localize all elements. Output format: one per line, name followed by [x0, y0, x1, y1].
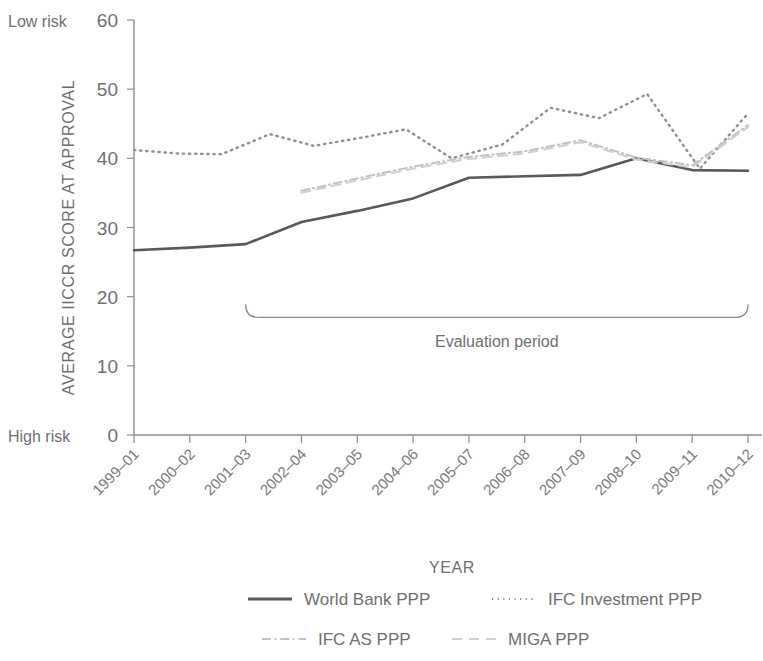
series-line-ifc-investment-ppp — [134, 94, 748, 169]
x-tick-label-9: 2008–10 — [591, 445, 644, 498]
iiccr-score-line-chart: 0102030405060Low riskHigh risk 1999–0120… — [0, 0, 763, 661]
series-lines — [134, 94, 748, 250]
legend-label-world-bank-ppp: World Bank PPP — [304, 590, 430, 609]
legend-label-ifc-investment-ppp: IFC Investment PPP — [548, 590, 702, 609]
evaluation-period-bracket-path — [246, 304, 748, 317]
y-tick-label-40: 40 — [97, 148, 118, 169]
x-tick-label-8: 2007–09 — [535, 445, 588, 498]
y-axis-low-risk-label: Low risk — [8, 13, 68, 30]
evaluation-period-label: Evaluation period — [435, 333, 559, 350]
x-tick-label-7: 2006–08 — [480, 445, 533, 498]
y-axis-high-risk-label: High risk — [8, 428, 71, 445]
x-axis-title: YEAR — [429, 559, 475, 576]
y-tick-label-10: 10 — [97, 356, 118, 377]
x-tick-label-11: 2010–12 — [703, 445, 756, 498]
x-axis: 1999–012000–022001–032002–042003–052004–… — [89, 435, 762, 498]
y-tick-label-60: 60 — [97, 10, 118, 31]
x-tick-label-2: 2001–03 — [200, 445, 253, 498]
y-tick-label-50: 50 — [97, 79, 118, 100]
y-tick-label-0: 0 — [107, 425, 118, 446]
x-tick-label-5: 2004–06 — [368, 445, 421, 498]
x-tick-label-0: 1999–01 — [89, 445, 142, 498]
chart-figure: 0102030405060Low riskHigh risk 1999–0120… — [0, 0, 763, 661]
y-tick-label-20: 20 — [97, 287, 118, 308]
series-line-ifc-as-ppp — [302, 125, 749, 191]
legend-label-miga-ppp: MIGA PPP — [508, 630, 589, 649]
axis-titles: AVERAGE IICCR SCORE AT APPROVALYEAR — [60, 80, 475, 576]
y-axis-title: AVERAGE IICCR SCORE AT APPROVAL — [60, 80, 77, 395]
evaluation-period-annotation: Evaluation period — [246, 304, 748, 350]
series-line-world-bank-ppp — [134, 158, 748, 250]
x-tick-label-6: 2005–07 — [424, 445, 477, 498]
x-tick-label-10: 2009–11 — [648, 445, 701, 498]
y-tick-label-30: 30 — [97, 218, 118, 239]
x-tick-label-1: 2000–02 — [145, 445, 198, 498]
x-tick-label-4: 2003–05 — [312, 445, 365, 498]
legend-label-ifc-as-ppp: IFC AS PPP — [318, 630, 411, 649]
x-tick-label-3: 2002–04 — [256, 445, 309, 498]
chart-legend: World Bank PPPIFC Investment PPPIFC AS P… — [248, 590, 702, 649]
